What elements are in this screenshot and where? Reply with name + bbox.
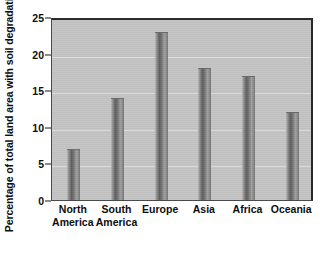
y-axis-tick-labels: 0510152025 <box>18 18 51 201</box>
bar <box>198 68 211 200</box>
bar-chart-figure: Percentage of total land area with soil … <box>0 0 327 261</box>
y-tick-label: 10 <box>32 122 44 134</box>
y-tick-label: 5 <box>38 158 44 170</box>
bar <box>242 76 255 200</box>
bar <box>67 149 80 200</box>
y-tick-label: 15 <box>32 85 44 97</box>
x-tick-label: Europe <box>142 203 178 216</box>
y-axis-title-container: Percentage of total land area with soil … <box>0 0 18 218</box>
y-tick-label: 25 <box>32 12 44 24</box>
x-axis-tick-labels: NorthAmericaSouthAmericaEuropeAsiaAfrica… <box>51 203 313 247</box>
bar <box>155 32 168 200</box>
bar-series <box>52 20 311 200</box>
y-tick-label: 0 <box>38 195 44 207</box>
x-tick-label: Asia <box>193 203 215 216</box>
x-tick-label: Africa <box>233 203 263 216</box>
y-tick-label: 20 <box>32 49 44 61</box>
x-tick-label: Oceania <box>271 203 312 216</box>
bar <box>111 98 124 200</box>
x-tick-label: SouthAmerica <box>96 203 137 229</box>
plot-area <box>51 18 313 201</box>
x-tick-label: NorthAmerica <box>52 203 93 229</box>
y-axis-title: Percentage of total land area with soil … <box>3 0 15 232</box>
bar <box>286 112 299 200</box>
